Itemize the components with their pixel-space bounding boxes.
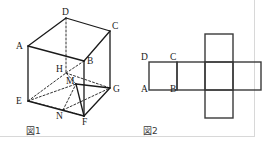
figure-canvas: ABCDEFGHMNDCAB 図1 図2 — [0, 0, 269, 149]
cube-edge-NG — [63, 88, 110, 110]
cube-edge-HB — [66, 61, 84, 73]
cube-edge-AB — [28, 46, 84, 61]
cube-vertex-label-a: A — [16, 42, 23, 52]
cube-vertex-label-b: B — [87, 57, 93, 67]
net-corner-label-a: A — [141, 85, 148, 95]
cube-edge-MF — [76, 84, 84, 116]
cube-edge-EH — [28, 73, 66, 101]
cube-vertex-label-m: M — [66, 77, 74, 87]
cube-vertex-label-g: G — [113, 85, 120, 95]
figure-2-caption: 図2 — [143, 127, 158, 136]
figure-1-caption: 図1 — [26, 127, 41, 136]
cube-vertex-label-c: C — [112, 22, 118, 32]
net-cell-row2-col2 — [177, 62, 205, 90]
net-cell-row2-col3 — [205, 62, 233, 90]
net-corner-label-d: D — [141, 53, 148, 63]
cube-edge-AD — [28, 18, 66, 46]
cube-vertex-label-e: E — [16, 97, 22, 107]
cube-vertex-label-n: N — [56, 112, 63, 122]
cube-edge-NM — [63, 84, 76, 110]
cube-vertex-label-d: D — [62, 8, 69, 18]
cube-vertex-label-h: H — [56, 65, 63, 75]
cube-edge-DC — [66, 18, 110, 31]
cube-visible-edges — [28, 18, 110, 116]
net-corner-label-c: C — [170, 53, 176, 63]
net-cell-row2-col4 — [233, 62, 261, 90]
cube-edge-FG — [84, 88, 110, 116]
net-cell-row3-col3 — [205, 90, 233, 118]
cube-net-cells — [149, 34, 261, 118]
net-corner-label-b: B — [170, 85, 176, 95]
net-cell-row1-col3 — [205, 34, 233, 62]
cube-vertex-label-f: F — [82, 118, 87, 128]
